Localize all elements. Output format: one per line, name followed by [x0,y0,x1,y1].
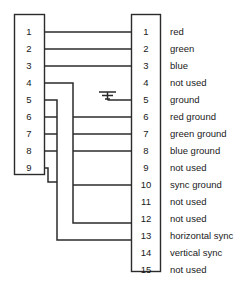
right-pin-number-7: 7 [136,129,156,139]
pin-label-10-sync-ground: sync ground [170,180,222,190]
pin-label-7-green-ground: green ground [170,129,227,139]
pin-label-12-not-used: not used [170,214,206,224]
left-pin-number-6: 6 [20,112,38,122]
right-pin-number-12: 12 [136,214,156,224]
left-pin-number-7: 7 [20,129,38,139]
left-pin-number-3: 3 [20,61,38,71]
pin-label-8-blue-ground: blue ground [170,146,220,156]
right-pin-number-1: 1 [136,27,156,37]
right-pin-number-11: 11 [136,197,156,207]
pin-label-3-blue: blue [170,61,188,71]
pin-label-4-not-used: not used [170,78,206,88]
right-pin-number-5: 5 [136,95,156,105]
right-pin-number-3: 3 [136,61,156,71]
left-pin-number-5: 5 [20,95,38,105]
left-pin-number-2: 2 [20,44,38,54]
wire-9-step [45,168,58,182]
connector-pinout-diagram: 1 2 3 4 5 6 7 8 9 1 2 3 4 5 6 7 8 9 10 1… [0,0,245,284]
right-pin-number-10: 10 [136,180,156,190]
pin-label-11-not-used: not used [170,197,206,207]
left-pin-number-4: 4 [20,78,38,88]
right-pin-number-6: 6 [136,112,156,122]
left-pin-number-9: 9 [20,163,38,173]
pin-label-2-green: green [170,44,194,54]
pin-label-13-horizontal-sync: horizontal sync [170,231,233,241]
right-pin-number-2: 2 [136,44,156,54]
right-pin-number-15: 15 [136,265,156,275]
wire-5-to-14-vertical-sync [45,100,132,240]
right-pin-number-9: 9 [136,163,156,173]
right-pin-number-4: 4 [136,78,156,88]
pin-label-5-ground: ground [170,95,200,105]
right-pin-number-14: 14 [136,248,156,258]
left-pin-number-1: 1 [20,27,38,37]
pin-label-14-vertical-sync: vertical sync [170,248,222,258]
pin-label-15-not-used: not used [170,265,206,275]
pin-label-6-red-ground: red ground [170,112,216,122]
right-pin-number-8: 8 [136,146,156,156]
pin-label-9-not-used: not used [170,163,206,173]
pin-label-1-red: red [170,27,184,37]
left-pin-number-8: 8 [20,146,38,156]
right-pin-number-13: 13 [136,231,156,241]
wiring-svg [0,0,245,284]
